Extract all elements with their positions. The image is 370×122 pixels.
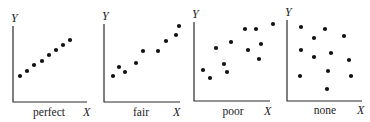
data-point [326, 69, 330, 73]
data-point [134, 61, 138, 65]
data-point [141, 49, 145, 53]
data-point [222, 62, 226, 66]
data-point [299, 48, 303, 52]
panel-caption: fair [133, 106, 149, 118]
y-axis-label: Y [285, 5, 293, 19]
y-axis-label: Y [192, 7, 200, 21]
x-axis-label: X [172, 105, 181, 119]
panel-caption: perfect [33, 106, 66, 119]
data-point [299, 25, 303, 29]
data-point [254, 27, 258, 31]
data-point [47, 53, 51, 57]
axes-lines [194, 22, 270, 101]
panel-caption: poor [222, 105, 243, 118]
data-point [323, 27, 327, 31]
data-point [201, 68, 205, 72]
data-point [18, 74, 22, 78]
data-point [208, 76, 212, 80]
data-point [325, 87, 329, 91]
data-point [54, 48, 58, 52]
data-point [25, 69, 29, 73]
data-point [271, 22, 275, 26]
data-point [32, 63, 36, 67]
axes-lines [104, 24, 180, 102]
data-point [259, 42, 263, 46]
data-point [214, 46, 218, 50]
data-point [61, 43, 65, 47]
data-point [229, 40, 233, 44]
data-point [246, 48, 250, 52]
data-point [349, 74, 353, 78]
data-point [298, 74, 302, 78]
data-point [111, 74, 115, 78]
data-point [174, 33, 178, 37]
data-point [40, 59, 44, 63]
data-point [156, 49, 160, 53]
scatter-panel-perfect: YperfectX [11, 11, 91, 119]
y-axis-label: Y [11, 11, 19, 25]
x-axis-label: X [356, 103, 365, 117]
data-point [68, 38, 72, 42]
data-point [257, 57, 261, 61]
data-point [243, 27, 247, 31]
data-point [225, 70, 229, 74]
panel-caption: none [314, 104, 336, 116]
data-point [312, 55, 316, 59]
data-point [342, 34, 346, 38]
x-axis-label: X [263, 104, 272, 118]
scatter-panel-fair: YfairX [102, 9, 181, 119]
data-point [117, 65, 121, 69]
data-point [177, 24, 181, 28]
data-point [329, 51, 333, 55]
scatter-plot-canvas: YperfectXYfairXYpoorXYnoneX [0, 0, 370, 122]
data-point [347, 58, 351, 62]
data-point [123, 70, 127, 74]
correlation-scatter-panels: YperfectXYfairXYpoorXYnoneX [0, 0, 370, 122]
data-point [164, 39, 168, 43]
data-point [312, 36, 316, 40]
y-axis-label: Y [102, 9, 110, 23]
x-axis-label: X [82, 105, 91, 119]
axes-lines [13, 26, 87, 102]
scatter-panel-none: YnoneX [285, 5, 365, 117]
scatter-panel-poor: YpoorX [192, 7, 275, 118]
